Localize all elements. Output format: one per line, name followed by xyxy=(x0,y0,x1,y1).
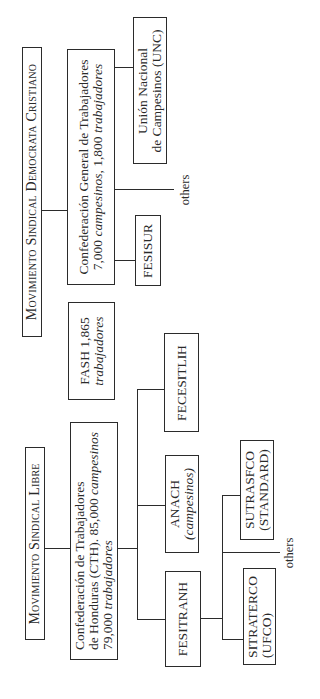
msdc-title-box: Movimiento Sindical Democrata Cristiano xyxy=(22,47,42,337)
anach-label: ANACH (campesinos) xyxy=(168,468,196,540)
connector xyxy=(45,548,70,549)
cgt-label: Confederación General de Trabajadores 7,… xyxy=(77,60,105,275)
fecesitlih-label: FECESITLIH xyxy=(174,345,188,421)
connector xyxy=(222,552,280,553)
fecesitlih-box: FECESITLIH xyxy=(164,333,199,432)
anach-box: ANACH (campesinos) xyxy=(165,455,199,553)
connector xyxy=(115,67,133,68)
connector xyxy=(115,189,174,190)
sutrasfco-label: SUTRASFCO (STANDARD) xyxy=(243,449,271,530)
unc-label: Unión Nacional de Campesinos (UNC) xyxy=(136,29,164,152)
connector xyxy=(222,495,240,496)
fash-label: FASH 1,865 trabajadores xyxy=(77,316,105,385)
cth-label: Confederación de Trabajadores de Hondura… xyxy=(73,432,116,650)
msl-title: Movimiento Sindical Libre xyxy=(28,463,43,624)
fesisur-label: FESISUR xyxy=(141,223,155,277)
fash-box: FASH 1,865 trabajadores xyxy=(68,302,115,400)
unc-box: Unión Nacional de Campesinos (UNC) xyxy=(133,17,167,164)
connector xyxy=(118,548,137,549)
connector xyxy=(115,260,135,261)
msl-others: others xyxy=(280,543,300,563)
fesisur-box: FESISUR xyxy=(135,215,161,286)
msl-title-box: Movimiento Sindical Libre xyxy=(25,447,45,640)
connector xyxy=(201,618,222,619)
connector xyxy=(137,389,164,390)
sitraterco-label: SITRATERCO (UFCO) xyxy=(245,576,273,658)
connector xyxy=(222,495,223,640)
cgt-box: Confederación General de Trabajadores 7,… xyxy=(67,49,115,285)
cth-box: Confederación de Trabajadores de Hondura… xyxy=(70,422,118,660)
msdc-title: Movimiento Sindical Democrata Cristiano xyxy=(25,64,40,320)
sutrasfco-box: SUTRASFCO (STANDARD) xyxy=(240,440,274,540)
msdc-others: others xyxy=(176,180,196,200)
connector xyxy=(42,210,67,211)
sitraterco-box: SITRATERCO (UFCO) xyxy=(243,568,276,665)
connector xyxy=(137,505,165,506)
fesitranh-label: FESITRANH xyxy=(176,582,190,656)
fesitranh-box: FESITRANH xyxy=(165,571,201,667)
connector xyxy=(222,639,243,640)
connector xyxy=(137,619,165,620)
